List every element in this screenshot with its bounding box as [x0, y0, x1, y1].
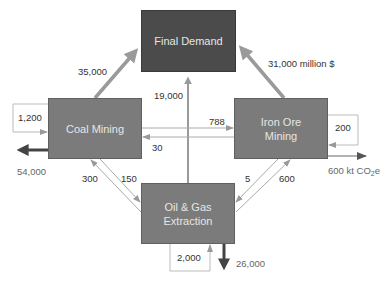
label-oil-to-final: 19,000 [154, 90, 183, 101]
label-coal-self: 1,200 [18, 112, 42, 123]
arrow-iron-to-oil [236, 159, 278, 202]
arrow-oil-to-coal [91, 160, 141, 212]
node-iron-ore-label-2: Mining [265, 129, 297, 143]
label-oil-to-iron: 600 [279, 173, 295, 184]
label-oil-self: 2,000 [177, 252, 201, 263]
node-coal-mining: Coal Mining [48, 98, 142, 159]
node-iron-ore-mining: Iron Ore Mining [234, 98, 328, 159]
emission-iron-prefix: 600 kt CO [328, 165, 371, 176]
node-final-demand: Final Demand [141, 10, 236, 72]
label-emission-coal: 54,000 [17, 166, 46, 177]
label-iron-to-coal: 30 [152, 142, 163, 153]
label-emission-oil: 26,000 [236, 258, 265, 269]
label-emission-iron: 600 kt CO2e [328, 165, 380, 177]
node-final-demand-label: Final Demand [154, 34, 222, 48]
node-oil-gas-label-2: Extraction [164, 214, 213, 228]
label-coal-to-iron: 788 [209, 116, 225, 127]
label-oil-to-coal: 300 [82, 173, 98, 184]
label-iron-to-oil: 5 [245, 173, 250, 184]
node-iron-ore-label-1: Iron Ore [261, 115, 301, 129]
label-coal-to-final: 35,000 [78, 66, 107, 77]
node-oil-gas-label-1: Oil & Gas [164, 200, 211, 214]
arrow-oil-to-iron [236, 160, 290, 212]
node-coal-mining-label: Coal Mining [66, 122, 124, 136]
label-iron-to-final: 31,000 million $ [268, 58, 335, 69]
node-oil-gas-extraction: Oil & Gas Extraction [141, 183, 235, 244]
emission-iron-suffix: e [375, 165, 380, 176]
label-iron-self: 200 [335, 122, 351, 133]
label-coal-to-oil: 150 [121, 173, 137, 184]
